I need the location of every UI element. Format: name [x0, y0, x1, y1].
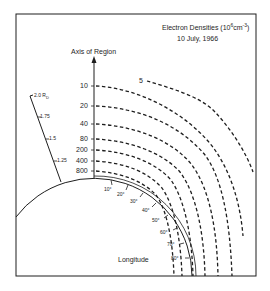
svg-text:200: 200: [76, 146, 88, 153]
svg-text:20: 20: [80, 102, 88, 109]
contour-level-labels: 10 20 40 80 200 400 800: [76, 82, 88, 174]
radius-scale-label-125: 1.25: [57, 157, 67, 163]
outer-contour-label: 5: [139, 77, 143, 84]
svg-text:80: 80: [80, 135, 88, 142]
svg-text:400: 400: [76, 157, 88, 164]
radius-scale-cap: [30, 95, 33, 96]
svg-text:800: 800: [76, 167, 88, 174]
svg-text:20°: 20°: [117, 191, 125, 197]
contour-80: [96, 139, 205, 276]
radius-scale-label-15: 1.5: [49, 135, 56, 141]
svg-text:10: 10: [80, 82, 88, 89]
longitude-label: Longitude: [118, 256, 149, 264]
electron-density-diagram: Electron Densities (106cm-3) 10 July, 19…: [0, 0, 270, 291]
axis-arrow-icon: [92, 56, 97, 63]
radius-scale-label-175: 1.75: [40, 113, 50, 119]
svg-text:60°: 60°: [160, 229, 168, 235]
svg-text:40°: 40°: [142, 207, 150, 213]
svg-text:80°: 80°: [171, 255, 179, 261]
figure-frame: [16, 14, 256, 276]
svg-text:70°: 70°: [167, 241, 175, 247]
svg-text:40: 40: [80, 120, 88, 127]
svg-text:50°: 50°: [152, 217, 160, 223]
contour-5: [147, 81, 253, 172]
figure-date: 10 July, 1966: [177, 35, 218, 43]
radius-scale-top-label: 2.0 RD: [34, 92, 49, 100]
svg-text:30°: 30°: [130, 198, 138, 204]
radius-scale-line: [30, 96, 61, 182]
figure-title: Electron Densities (106cm-3): [162, 22, 249, 32]
svg-text:10°: 10°: [104, 186, 112, 192]
axis-of-region-label: Axis of Region: [71, 48, 116, 56]
contour-40: [96, 124, 218, 276]
